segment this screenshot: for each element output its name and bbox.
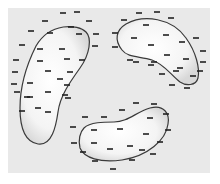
minus-charge-icon <box>47 32 53 34</box>
minus-charge-icon <box>19 44 25 46</box>
minus-charge-icon <box>79 59 85 61</box>
minus-charge-icon <box>184 87 190 89</box>
minus-charge-icon <box>65 97 71 99</box>
minus-charge-icon <box>164 54 170 56</box>
minus-charge-icon <box>200 50 206 52</box>
minus-charge-icon <box>57 78 63 80</box>
region-top-left <box>20 27 89 145</box>
minus-charge-icon <box>42 20 48 22</box>
minus-charge-icon <box>148 44 154 46</box>
minus-charge-icon <box>165 129 171 131</box>
minus-charge-icon <box>67 71 73 73</box>
minus-charge-icon <box>143 133 149 135</box>
minus-charge-icon <box>190 75 196 77</box>
minus-charge-icon <box>131 37 137 39</box>
minus-charge-icon <box>28 30 34 32</box>
minus-charge-icon <box>82 116 88 118</box>
minus-charge-icon <box>45 111 51 113</box>
minus-charge-icon <box>197 70 203 72</box>
minus-charge-icon <box>24 96 30 98</box>
minus-charge-icon <box>150 153 156 155</box>
minus-charge-icon <box>168 17 174 19</box>
minus-charge-icon <box>35 107 41 109</box>
minus-charge-icon <box>173 70 179 72</box>
minus-charge-icon <box>139 149 145 151</box>
minus-charge-icon <box>119 109 125 111</box>
minus-charge-icon <box>163 34 169 36</box>
charged-regions-diagram <box>0 0 220 184</box>
minus-charge-icon <box>177 67 183 69</box>
minus-charge-icon <box>112 46 118 48</box>
minus-charge-icon <box>14 91 20 93</box>
minus-charge-icon <box>71 142 77 144</box>
minus-charge-icon <box>121 19 127 21</box>
minus-charge-icon <box>64 58 70 60</box>
minus-charge-icon <box>193 37 199 39</box>
minus-charge-icon <box>13 59 19 61</box>
minus-charge-icon <box>157 141 163 143</box>
minus-charge-icon <box>11 83 17 85</box>
minus-charge-icon <box>68 26 74 28</box>
minus-charge-icon <box>147 117 153 119</box>
minus-charge-icon <box>110 168 116 170</box>
minus-charge-icon <box>151 61 157 63</box>
minus-charge-icon <box>127 145 133 147</box>
minus-charge-icon <box>101 116 107 118</box>
minus-charge-icon <box>70 126 76 128</box>
minus-charge-icon <box>133 61 139 63</box>
minus-charge-icon <box>129 159 135 161</box>
minus-charge-icon <box>143 24 149 26</box>
minus-charge-icon <box>169 84 175 86</box>
minus-charge-icon <box>92 45 98 47</box>
minus-charge-icon <box>45 70 51 72</box>
minus-charge-icon <box>37 60 43 62</box>
minus-charge-icon <box>151 103 157 105</box>
minus-charge-icon <box>76 33 82 35</box>
minus-charge-icon <box>136 12 142 14</box>
minus-charge-icon <box>93 33 99 35</box>
minus-charge-icon <box>45 91 51 93</box>
minus-charge-icon <box>112 32 118 34</box>
minus-charge-icon <box>200 61 206 63</box>
region-bottom-center <box>79 107 168 161</box>
minus-charge-icon <box>133 102 139 104</box>
minus-charge-icon <box>148 64 154 66</box>
minus-charge-icon <box>92 160 98 162</box>
minus-charge-icon <box>62 94 68 96</box>
minus-charge-icon <box>107 148 113 150</box>
minus-charge-icon <box>179 41 185 43</box>
minus-charge-icon <box>163 113 169 115</box>
minus-charge-icon <box>19 110 25 112</box>
minus-charge-icon <box>80 151 86 153</box>
minus-charge-icon <box>60 12 66 14</box>
minus-charge-icon <box>27 82 33 84</box>
minus-charge-icon <box>117 128 123 130</box>
minus-charge-icon <box>74 11 80 13</box>
minus-charge-icon <box>86 20 92 22</box>
minus-charge-icon <box>127 59 133 61</box>
minus-charge-icon <box>64 84 70 86</box>
minus-charge-icon <box>159 73 165 75</box>
region-top-right <box>117 19 198 85</box>
minus-charge-icon <box>91 129 97 131</box>
minus-charge-icon <box>59 48 65 50</box>
minus-charge-icon <box>91 142 97 144</box>
minus-charge-icon <box>154 11 160 13</box>
minus-charge-icon <box>37 48 43 50</box>
minus-charge-icon <box>12 71 18 73</box>
minus-charge-icon <box>183 58 189 60</box>
